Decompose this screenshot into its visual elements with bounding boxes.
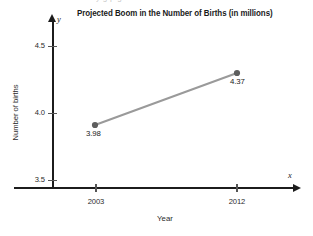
data-point-marker: [92, 122, 98, 128]
data-point-marker: [234, 70, 240, 76]
chart-figure: y g p g Projected Boom in the Number of …: [0, 0, 313, 236]
plot-area: [0, 0, 313, 236]
data-point-label: 4.37: [230, 77, 245, 86]
series-line: [95, 73, 237, 125]
data-point-label: 3.98: [86, 129, 101, 138]
